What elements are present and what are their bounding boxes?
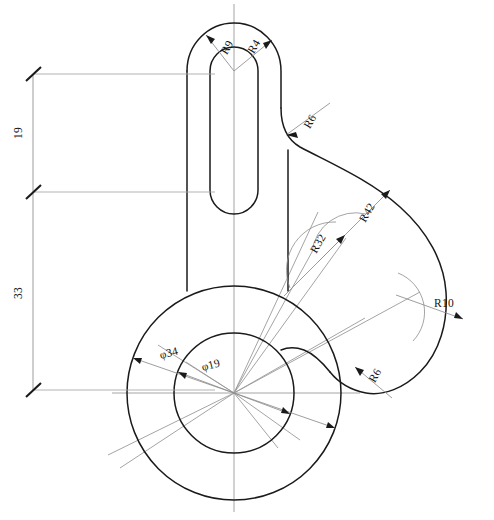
arrowhead-r6-top <box>286 132 298 138</box>
arrowhead-d34-right <box>326 422 335 428</box>
arrowhead-r10 <box>454 312 463 319</box>
construction-ray-b <box>120 393 234 468</box>
part-outline-group <box>127 23 446 500</box>
dimension-label-33: 33 <box>12 287 24 299</box>
arrowhead-r6-bottom <box>355 367 364 376</box>
arrowhead-d19-right <box>281 407 290 414</box>
diameter-label-19: φ19 <box>200 356 222 373</box>
arrowhead-r9 <box>206 35 215 44</box>
arrowhead-d34-left <box>133 358 142 364</box>
radius-leaders-group: R9 R4 R6 R42 R32 R10 <box>206 35 463 398</box>
radius-label-r6-bottom: R6 <box>366 366 383 384</box>
radius-label-r4: R4 <box>245 37 262 55</box>
linear-dimension-stack: 19 33 <box>12 67 215 397</box>
engineering-drawing-canvas: 19 33 R9 R4 R6 R42 R32 <box>0 0 494 520</box>
radius-label-r6-top: R6 <box>301 112 318 130</box>
construction-ray-d <box>234 212 318 393</box>
technical-drawing-svg: 19 33 R9 R4 R6 R42 R32 <box>0 0 494 520</box>
construction-arc-r10 <box>398 273 425 341</box>
construction-ray-g <box>234 393 300 440</box>
arrowhead-d19-left <box>178 372 187 379</box>
construction-arc-r32 <box>286 222 336 288</box>
radius-label-r42: R42 <box>357 201 377 224</box>
radius-label-r10: R10 <box>434 297 454 309</box>
construction-ray-c <box>234 318 365 393</box>
radius-label-r32: R32 <box>308 232 328 255</box>
centerlines-group <box>108 4 420 512</box>
dimension-label-19: 19 <box>12 127 24 139</box>
arrowhead-r4 <box>263 40 272 49</box>
